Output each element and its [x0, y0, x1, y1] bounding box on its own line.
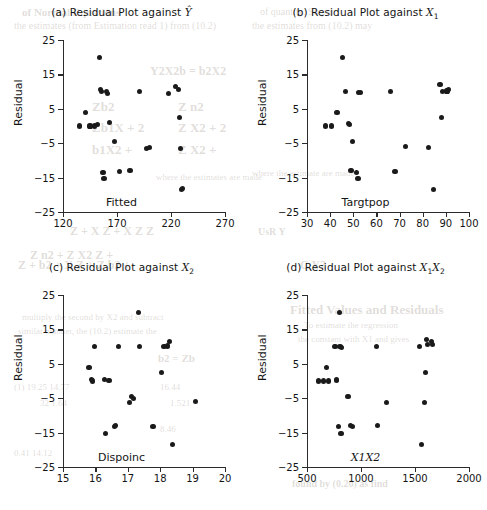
y-tick	[58, 178, 63, 179]
scatter-point	[324, 365, 329, 370]
x-tick	[415, 467, 416, 472]
panel-d-x-label-variable: X1X2	[351, 451, 381, 464]
scatter-point	[83, 110, 88, 115]
scatter-point	[131, 396, 136, 401]
y-tick-label: −5	[284, 393, 299, 404]
x-tick-label: 270	[215, 218, 234, 229]
scatter-point	[339, 345, 344, 350]
x-tick-label: 60	[370, 218, 383, 229]
scatter-point	[334, 378, 339, 383]
scatter-point	[178, 146, 183, 151]
scatter-point	[137, 89, 142, 94]
panel-b-y-axis	[307, 40, 308, 212]
panel-d-title-variable: X1X2	[420, 261, 445, 273]
y-tick-label: −15	[34, 172, 55, 183]
scatter-point	[343, 89, 348, 94]
scatter-point	[95, 122, 100, 127]
x-tick	[225, 212, 226, 217]
x-tick	[423, 212, 424, 217]
y-tick-label: 5	[293, 103, 299, 114]
y-tick-label: −15	[278, 427, 299, 438]
panel-a-y-axis	[63, 40, 64, 212]
x-tick-label: 15	[57, 473, 70, 484]
x-tick	[307, 212, 308, 217]
panel-c-x-axis-label: Dispoinc	[0, 451, 243, 464]
x-tick-label: 1500	[402, 473, 427, 484]
panel-c-title-variable: X2	[182, 261, 194, 273]
y-tick-label: −5	[284, 138, 299, 149]
panel-b-y-axis-label: Residual	[256, 80, 269, 126]
scatter-point	[437, 82, 442, 87]
scatter-point	[193, 399, 198, 404]
x-tick	[376, 212, 377, 217]
scatter-point	[90, 378, 95, 383]
scatter-point	[423, 370, 428, 375]
y-tick-label: 15	[42, 324, 55, 335]
panel-a-title-variable: Ŷ	[185, 6, 192, 18]
scatter-point	[97, 55, 102, 60]
scatter-point	[116, 344, 121, 349]
panel-a-title: (a) Residual Plot against Ŷ	[0, 6, 243, 18]
scatter-point	[347, 122, 352, 127]
x-tick-label: 90	[439, 218, 452, 229]
scatter-point	[103, 431, 108, 436]
x-tick-label: 80	[416, 218, 429, 229]
panel-b-x-axis-label: Targtpop	[244, 196, 487, 209]
y-tick-label: 25	[286, 35, 299, 46]
y-tick	[302, 178, 307, 179]
scatter-point	[354, 170, 359, 175]
panel-a-x-axis-label: Fitted	[0, 196, 243, 209]
scatter-point	[403, 144, 408, 149]
panel-b-title: (b) Residual Plot against X1	[244, 6, 487, 21]
y-tick-label: 25	[42, 290, 55, 301]
x-tick-label: 17	[121, 473, 134, 484]
scatter-point	[92, 344, 97, 349]
scatter-point	[113, 423, 118, 428]
x-tick-label: 50	[347, 218, 360, 229]
y-tick-label: 25	[42, 35, 55, 46]
scatter-point	[392, 169, 397, 174]
scatter-point	[326, 378, 331, 383]
scatter-point	[350, 424, 355, 429]
residual-plot-panel-b: (b) Residual Plot against X1 25155−5−15−…	[244, 0, 487, 255]
panel-d-y-axis-label: Residual	[256, 335, 269, 381]
scatter-point	[165, 343, 170, 348]
y-tick	[302, 398, 307, 399]
scatter-point	[106, 378, 111, 383]
scatter-point	[439, 115, 444, 120]
x-tick	[446, 212, 447, 217]
scatter-point	[170, 442, 175, 447]
scatter-point	[86, 365, 91, 370]
panel-c-y-axis-label: Residual	[12, 335, 25, 381]
scatter-point	[166, 91, 171, 96]
scatter-point	[350, 139, 355, 144]
x-tick	[63, 467, 64, 472]
x-tick	[117, 212, 118, 217]
scatter-point	[334, 110, 339, 115]
y-tick-label: 5	[49, 358, 55, 369]
scatter-point	[375, 423, 380, 428]
scatter-point	[150, 424, 155, 429]
scatter-point	[167, 339, 172, 344]
panel-d-title: (d) Residual Plot against X1X2	[244, 261, 487, 276]
scatter-point	[323, 123, 328, 128]
y-tick	[302, 329, 307, 330]
y-tick	[58, 40, 63, 41]
y-tick	[302, 40, 307, 41]
scatter-point	[431, 187, 436, 192]
y-tick	[58, 433, 63, 434]
x-tick-label: 220	[161, 218, 180, 229]
y-tick-label: 15	[286, 69, 299, 80]
x-tick	[361, 467, 362, 472]
panel-c-y-axis	[63, 295, 64, 467]
y-tick	[58, 109, 63, 110]
residual-plot-panel-c: (c) Residual Plot against X2 25155−5−15−…	[0, 255, 243, 510]
scatter-point	[101, 176, 106, 181]
scatter-point	[112, 139, 117, 144]
y-tick	[58, 364, 63, 365]
scatter-point	[159, 370, 164, 375]
y-tick	[58, 74, 63, 75]
scatter-point	[337, 310, 342, 315]
y-tick	[302, 433, 307, 434]
x-tick	[160, 467, 161, 472]
